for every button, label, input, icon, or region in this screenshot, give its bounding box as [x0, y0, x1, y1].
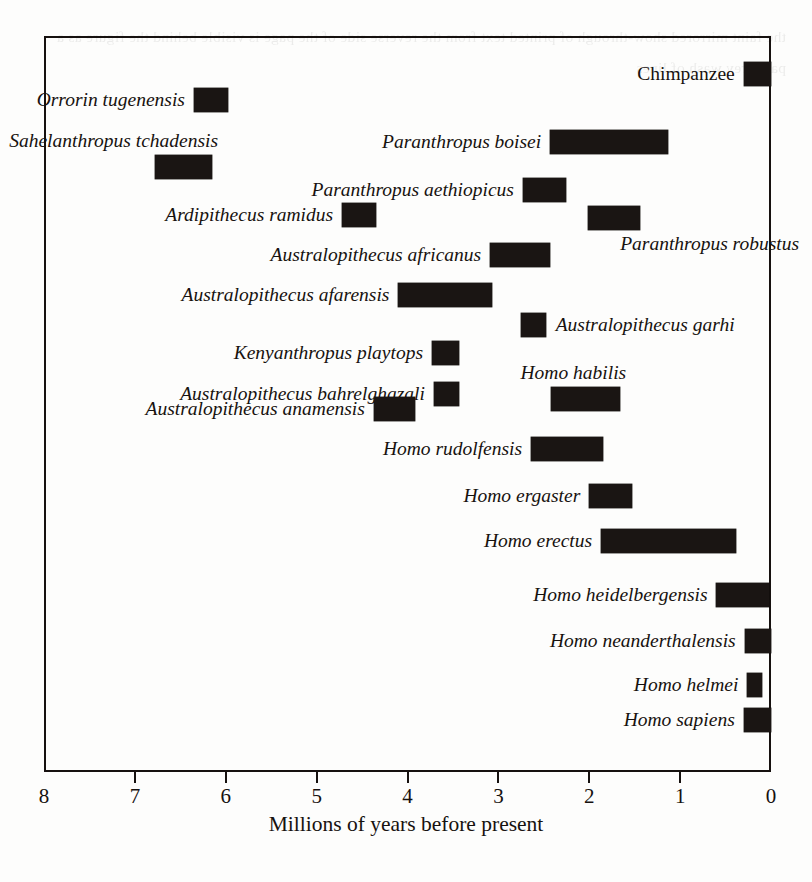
- species-row: Homo ergaster: [0, 484, 812, 508]
- species-label: Paranthropus aethiopicus: [312, 178, 514, 202]
- species-label: Homo habilis: [521, 361, 627, 385]
- range-bar: [398, 283, 492, 307]
- x-tick-label-3: 3: [493, 784, 504, 809]
- x-tick-label-7: 7: [130, 784, 141, 809]
- range-bar: [374, 397, 415, 421]
- species-label: Homo ergaster: [463, 484, 580, 508]
- range-bar: [155, 155, 212, 179]
- species-label: Homo helmei: [634, 673, 739, 697]
- species-row: Homo helmei: [0, 673, 812, 697]
- x-tick-label-6: 6: [221, 784, 232, 809]
- range-bar: [589, 484, 632, 508]
- species-label: Chimpanzee: [637, 62, 734, 86]
- species-row: Paranthropus boisei: [0, 130, 812, 154]
- evolution-timeline-chart: ChimpanzeeOrrorin tugenensisSahelanthrop…: [0, 0, 812, 882]
- range-bar: [432, 341, 459, 365]
- species-row: Australopithecus africanus: [0, 243, 812, 267]
- range-bar: [194, 88, 229, 112]
- x-tick-7: [134, 772, 136, 783]
- species-label: Paranthropus boisei: [382, 130, 541, 154]
- species-row: Homo rudolfensis: [0, 437, 812, 461]
- species-label: Australopithecus africanus: [271, 243, 482, 267]
- x-tick-6: [225, 772, 227, 783]
- species-row: Homo heidelbergensis: [0, 583, 812, 607]
- species-row: Sahelanthropus tchadensis: [0, 155, 812, 179]
- range-bar: [716, 583, 769, 607]
- species-label: Australopithecus afarensis: [182, 283, 390, 307]
- species-row: Paranthropus aethiopicus: [0, 178, 812, 202]
- range-bar: [523, 178, 566, 202]
- range-bar: [601, 529, 735, 553]
- species-label: Homo rudolfensis: [383, 437, 522, 461]
- species-label: Homo neanderthalensis: [550, 629, 736, 653]
- x-tick-3: [497, 772, 499, 783]
- range-bar: [521, 313, 546, 337]
- x-tick-label-4: 4: [402, 784, 413, 809]
- species-row: Kenyanthropus playtops: [0, 341, 812, 365]
- species-label: Homo heidelbergensis: [533, 583, 707, 607]
- species-row: Homo erectus: [0, 529, 812, 553]
- x-tick-label-0: 0: [766, 784, 777, 809]
- species-row: Homo sapiens: [0, 708, 812, 732]
- range-bar: [744, 708, 771, 732]
- x-tick-label-1: 1: [675, 784, 686, 809]
- x-tick-1: [679, 772, 681, 783]
- species-row: Paranthropus robustus: [0, 206, 812, 230]
- species-row: Australopithecus afarensis: [0, 283, 812, 307]
- range-bar: [531, 437, 603, 461]
- species-row: Australopithecus garhi: [0, 313, 812, 337]
- x-tick-label-8: 8: [39, 784, 50, 809]
- x-tick-4: [407, 772, 409, 783]
- range-bar: [550, 130, 668, 154]
- species-label: Homo sapiens: [624, 708, 735, 732]
- species-label: Kenyanthropus playtops: [234, 341, 423, 365]
- species-row: Homo neanderthalensis: [0, 629, 812, 653]
- species-label: Orrorin tugenensis: [37, 88, 185, 112]
- x-tick-label-2: 2: [584, 784, 595, 809]
- species-row: Chimpanzee: [0, 62, 812, 86]
- species-row: Orrorin tugenensis: [0, 88, 812, 112]
- x-tick-label-5: 5: [311, 784, 322, 809]
- species-label: Homo erectus: [484, 529, 592, 553]
- species-row: Australopithecus anamensis: [0, 397, 812, 421]
- x-axis-title: Millions of years before present: [0, 812, 812, 837]
- species-label: Australopithecus anamensis: [146, 397, 365, 421]
- range-bar: [490, 243, 550, 267]
- range-bar: [588, 206, 640, 230]
- x-tick-2: [588, 772, 590, 783]
- species-label: Australopithecus garhi: [556, 313, 735, 337]
- x-tick-5: [316, 772, 318, 783]
- range-bar: [747, 673, 762, 697]
- range-bar: [745, 629, 771, 653]
- range-bar: [744, 62, 771, 86]
